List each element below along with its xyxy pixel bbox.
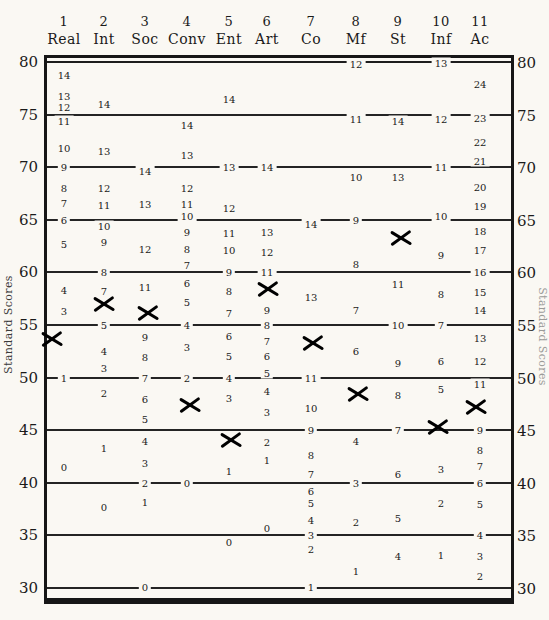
x-mark-ac (465, 400, 487, 415)
raw-score-cell-inf-7: 7 (435, 320, 447, 331)
col-header-number-st: 9 (394, 14, 403, 29)
raw-score-cell-conv-12: 12 (178, 183, 197, 194)
raw-score-cell-conv-7: 7 (181, 260, 193, 271)
raw-score-cell-int-10: 10 (95, 221, 114, 232)
raw-score-cell-ac-20: 20 (471, 182, 490, 193)
raw-score-cell-soc-3: 3 (139, 457, 151, 468)
raw-score-cell-ent-11: 11 (220, 228, 239, 239)
tick-left-40: 40 (0, 474, 38, 492)
raw-score-cell-st-13: 13 (389, 171, 408, 182)
raw-score-cell-inf-10: 10 (432, 210, 451, 221)
raw-score-cell-int-3: 3 (98, 363, 110, 374)
tick-right-70: 70 (517, 159, 536, 177)
raw-score-cell-ac-22: 22 (471, 136, 490, 147)
raw-score-cell-conv-6: 6 (181, 277, 193, 288)
col-header-number-inf: 10 (432, 14, 450, 29)
raw-score-cell-art-11: 11 (258, 267, 277, 278)
raw-score-cell-soc-1: 1 (139, 496, 151, 507)
raw-score-cell-real-12: 12 (55, 102, 74, 113)
raw-score-cell-ac-16: 16 (471, 267, 490, 278)
raw-score-cell-mf-4: 4 (350, 435, 362, 446)
raw-score-cell-art-12: 12 (258, 247, 277, 258)
raw-score-cell-mf-3: 3 (350, 477, 362, 488)
raw-score-cell-conv-13: 13 (178, 149, 197, 160)
raw-score-cell-real-11: 11 (55, 115, 74, 126)
raw-score-cell-co-13: 13 (302, 291, 321, 302)
raw-score-cell-st-7: 7 (392, 425, 404, 436)
raw-score-cell-co-3: 3 (305, 530, 317, 541)
col-header-number-soc: 3 (141, 14, 150, 29)
col-header-number-co: 7 (307, 14, 316, 29)
raw-score-cell-mf-10: 10 (347, 171, 366, 182)
raw-score-cell-inf-9: 9 (435, 249, 447, 260)
tick-right-60: 60 (517, 264, 536, 282)
raw-score-cell-int-14: 14 (95, 99, 114, 110)
raw-score-cell-art-2: 2 (261, 436, 273, 447)
raw-score-cell-real-6: 6 (58, 214, 70, 225)
grid-line-60 (47, 271, 511, 273)
raw-score-cell-int-2: 2 (98, 388, 110, 399)
raw-score-cell-inf-6: 6 (435, 355, 447, 366)
col-header-label-st: St (390, 31, 406, 47)
raw-score-cell-real-10: 10 (55, 143, 74, 154)
raw-score-cell-inf-12: 12 (432, 113, 451, 124)
raw-score-cell-ent-8: 8 (223, 286, 235, 297)
raw-score-cell-int-12: 12 (95, 183, 114, 194)
col-header-label-art: Art (255, 31, 279, 47)
profile-score-chart: Standard Scores Standard Scores 80807575… (0, 0, 549, 620)
raw-score-cell-ent-0: 0 (223, 536, 235, 547)
x-mark-int (93, 296, 115, 311)
raw-score-cell-inf-11: 11 (432, 162, 451, 173)
col-header-number-art: 6 (263, 14, 272, 29)
raw-score-cell-mf-8: 8 (350, 258, 362, 269)
raw-score-cell-int-9: 9 (98, 236, 110, 247)
tick-right-45: 45 (517, 422, 536, 440)
col-header-label-mf: Mf (346, 31, 367, 47)
raw-score-cell-conv-14: 14 (178, 120, 197, 131)
x-mark-art (257, 282, 279, 297)
tick-right-75: 75 (517, 107, 536, 125)
raw-score-cell-st-4: 4 (392, 551, 404, 562)
raw-score-cell-art-14: 14 (258, 162, 277, 173)
raw-score-cell-st-6: 6 (392, 469, 404, 480)
raw-score-cell-soc-13: 13 (136, 199, 155, 210)
raw-score-cell-real-14: 14 (55, 69, 74, 80)
raw-score-cell-conv-0: 0 (181, 477, 193, 488)
raw-score-cell-soc-5: 5 (139, 413, 151, 424)
raw-score-cell-art-0: 0 (261, 523, 273, 534)
raw-score-cell-ac-21: 21 (471, 155, 490, 166)
raw-score-cell-conv-3: 3 (181, 342, 193, 353)
tick-right-30: 30 (517, 580, 536, 598)
col-header-number-mf: 8 (352, 14, 361, 29)
tick-right-35: 35 (517, 527, 536, 545)
raw-score-cell-ent-12: 12 (220, 203, 239, 214)
raw-score-cell-real-13: 13 (55, 90, 74, 101)
col-header-number-real: 1 (60, 14, 69, 29)
raw-score-cell-int-11: 11 (95, 200, 114, 211)
raw-score-cell-soc-0: 0 (139, 581, 151, 592)
raw-score-cell-co-9: 9 (305, 425, 317, 436)
raw-score-cell-conv-10: 10 (178, 210, 197, 221)
raw-score-cell-mf-1: 1 (350, 566, 362, 577)
raw-score-cell-ac-5: 5 (474, 498, 486, 509)
tick-left-45: 45 (0, 421, 38, 439)
raw-score-cell-co-7: 7 (305, 469, 317, 480)
tick-left-80: 80 (0, 53, 38, 71)
raw-score-cell-soc-9: 9 (139, 331, 151, 342)
raw-score-cell-ent-3: 3 (223, 392, 235, 403)
col-header-label-co: Co (301, 31, 321, 47)
raw-score-cell-real-7: 7 (58, 197, 70, 208)
grid-line-30 (47, 587, 511, 589)
raw-score-cell-ac-13: 13 (471, 332, 490, 343)
raw-score-cell-co-10: 10 (302, 403, 321, 414)
raw-score-cell-ent-5: 5 (223, 350, 235, 361)
raw-score-cell-conv-2: 2 (181, 372, 193, 383)
col-header-label-soc: Soc (131, 31, 158, 47)
raw-score-cell-ac-7: 7 (474, 460, 486, 471)
tick-left-65: 65 (0, 211, 38, 229)
tick-left-50: 50 (0, 369, 38, 387)
raw-score-cell-co-1: 1 (305, 581, 317, 592)
tick-left-30: 30 (0, 579, 38, 597)
raw-score-cell-soc-7: 7 (139, 372, 151, 383)
raw-score-cell-art-5: 5 (261, 368, 273, 379)
